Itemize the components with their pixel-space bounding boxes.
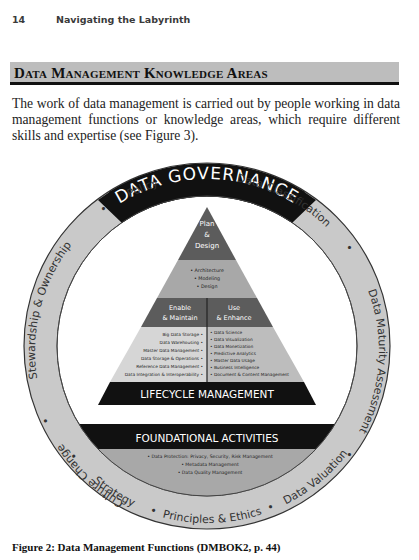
use-item: • Predictive Analytics bbox=[210, 351, 257, 356]
foundation-item: • Data Quality Management bbox=[178, 470, 243, 475]
enable-heading-line2: & Maintain bbox=[162, 314, 197, 322]
foundation-item: • Data Protection: Privacy, Security, Ri… bbox=[147, 454, 273, 459]
use-item: • Data Monetization bbox=[210, 344, 254, 349]
plan-heading-line2: & bbox=[204, 231, 210, 239]
use-item: • Document & Content Management bbox=[210, 372, 289, 377]
enable-heading-line1: Enable bbox=[169, 304, 191, 312]
use-item: • Data Science bbox=[210, 330, 243, 335]
enable-item: Data Warehousing • bbox=[160, 340, 203, 345]
use-heading-line2: & Enhance bbox=[216, 314, 251, 322]
enable-item: Data Integration & Interoperability • bbox=[125, 372, 203, 377]
plan-item: • Modeling bbox=[194, 276, 220, 281]
use-item: • Master Data Usage bbox=[210, 358, 255, 363]
plan-item: • Design bbox=[197, 284, 218, 289]
plan-heading-line1: Plan bbox=[200, 220, 215, 228]
data-management-wheel-diagram: DATA GOVERNANCE Policy • Stewardship & O… bbox=[0, 0, 419, 560]
lifecycle-management-label: LIFECYCLE MANAGEMENT bbox=[140, 388, 274, 400]
use-item: • Data Visualization bbox=[210, 337, 253, 342]
figure-caption: Figure 2: Data Management Functions (DMB… bbox=[12, 541, 280, 553]
plan-item: • Architecture bbox=[190, 268, 224, 273]
enable-item: Big Data Storage • bbox=[162, 332, 203, 337]
foundational-activities-label: FOUNDATIONAL ACTIVITIES bbox=[135, 432, 278, 444]
plan-heading-line3: Design bbox=[195, 242, 219, 250]
enable-item: Reference Data Management • bbox=[136, 364, 203, 369]
use-item: • Business Intelligence bbox=[210, 365, 260, 370]
enable-item: Master Data Management • bbox=[143, 348, 203, 353]
foundation-item: • Metadata Management bbox=[181, 462, 239, 467]
use-heading-line1: Use bbox=[228, 304, 240, 312]
enable-item: Data Storage & Operations • bbox=[141, 356, 203, 361]
